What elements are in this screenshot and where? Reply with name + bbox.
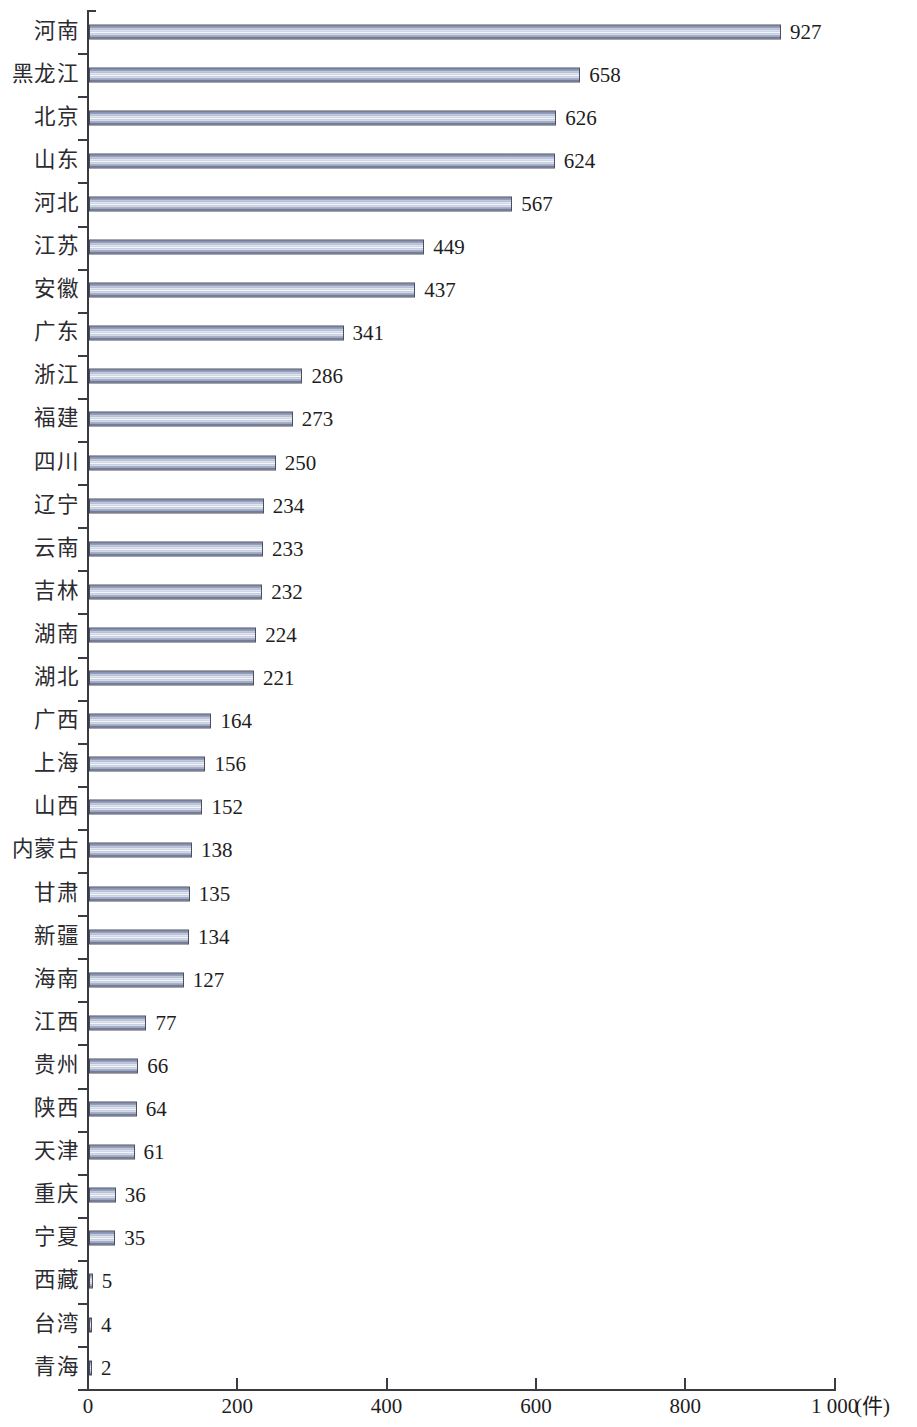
category-label: 黑龙江 bbox=[12, 64, 80, 86]
bar bbox=[89, 326, 344, 341]
x-axis-unit-label: (件) bbox=[855, 1396, 890, 1417]
x-axis-tick bbox=[386, 1378, 388, 1390]
bar bbox=[89, 283, 415, 298]
bar-value-label: 224 bbox=[265, 624, 297, 645]
bar-and-value: 135 bbox=[89, 886, 230, 901]
category-label: 云南 bbox=[34, 538, 79, 560]
bar-value-label: 341 bbox=[353, 323, 385, 344]
bar bbox=[89, 196, 512, 211]
bar bbox=[89, 1015, 146, 1030]
bar-and-value: 77 bbox=[89, 1015, 176, 1030]
bar-row: 黑龙江658 bbox=[0, 53, 917, 96]
y-axis-tick bbox=[78, 1131, 87, 1133]
y-axis-tick bbox=[78, 441, 87, 443]
category-label: 安徽 bbox=[34, 279, 79, 301]
category-label: 河南 bbox=[34, 21, 79, 43]
bar-and-value: 5 bbox=[89, 1274, 112, 1289]
category-label: 新疆 bbox=[34, 926, 79, 948]
y-axis-tick bbox=[78, 958, 87, 960]
bar-row: 西藏5 bbox=[0, 1260, 917, 1303]
y-axis-tick bbox=[78, 398, 87, 400]
category-label: 天津 bbox=[34, 1141, 79, 1163]
bar-and-value: 234 bbox=[89, 498, 304, 513]
bar-and-value: 134 bbox=[89, 929, 230, 944]
bar-row: 海南127 bbox=[0, 958, 917, 1001]
bar-value-label: 437 bbox=[424, 280, 456, 301]
bar-value-label: 77 bbox=[155, 1012, 176, 1033]
bar-and-value: 36 bbox=[89, 1188, 146, 1203]
bar bbox=[89, 972, 184, 987]
bar-and-value: 66 bbox=[89, 1058, 168, 1073]
category-label: 重庆 bbox=[34, 1184, 79, 1206]
category-label: 山东 bbox=[34, 150, 79, 172]
category-label: 广西 bbox=[34, 710, 79, 732]
bar-row: 宁夏35 bbox=[0, 1217, 917, 1260]
category-label: 吉林 bbox=[34, 581, 79, 603]
category-label: 北京 bbox=[34, 107, 79, 129]
bar-value-label: 64 bbox=[146, 1099, 167, 1120]
bar-and-value: 64 bbox=[89, 1102, 167, 1117]
bar-row: 上海156 bbox=[0, 743, 917, 786]
y-axis-tick bbox=[78, 1088, 87, 1090]
category-label: 浙江 bbox=[34, 366, 79, 388]
bar-value-label: 134 bbox=[198, 926, 230, 947]
bar-and-value: 626 bbox=[89, 110, 597, 125]
x-axis-tick bbox=[684, 1378, 686, 1390]
bar-value-label: 286 bbox=[311, 366, 343, 387]
y-axis-tick bbox=[78, 915, 87, 917]
bar-and-value: 127 bbox=[89, 972, 224, 987]
bar-row: 北京626 bbox=[0, 96, 917, 139]
y-axis-tick bbox=[78, 1260, 87, 1262]
bar-row: 湖南224 bbox=[0, 613, 917, 656]
y-axis-tick bbox=[78, 1174, 87, 1176]
bar bbox=[89, 929, 189, 944]
bar-row: 湖北221 bbox=[0, 657, 917, 700]
bar-row: 台湾4 bbox=[0, 1303, 917, 1346]
y-axis-tick bbox=[78, 527, 87, 529]
bar-value-label: 61 bbox=[144, 1142, 165, 1163]
y-axis-tick bbox=[78, 829, 87, 831]
bar-row: 陕西64 bbox=[0, 1088, 917, 1131]
bar bbox=[89, 1058, 138, 1073]
y-axis-tick bbox=[78, 700, 87, 702]
bar-chart: 河南927黑龙江658北京626山东624河北567江苏449安徽437广东34… bbox=[0, 0, 917, 1427]
bar bbox=[89, 714, 211, 729]
category-label: 湖南 bbox=[34, 624, 79, 646]
plot-area: 河南927黑龙江658北京626山东624河北567江苏449安徽437广东34… bbox=[0, 0, 917, 1427]
bar bbox=[89, 24, 781, 39]
bar-and-value: 232 bbox=[89, 584, 303, 599]
bar-row: 辽宁234 bbox=[0, 484, 917, 527]
bar-and-value: 224 bbox=[89, 627, 297, 642]
category-label: 福建 bbox=[34, 409, 79, 431]
bar-value-label: 233 bbox=[272, 538, 304, 559]
bar-row: 内蒙古138 bbox=[0, 829, 917, 872]
bar bbox=[89, 1188, 116, 1203]
y-axis-tick bbox=[78, 312, 87, 314]
bar-value-label: 927 bbox=[790, 21, 822, 42]
bar-value-label: 567 bbox=[521, 193, 553, 214]
bar-row: 江西77 bbox=[0, 1001, 917, 1044]
bar bbox=[89, 240, 424, 255]
bar-value-label: 624 bbox=[564, 150, 596, 171]
bar-value-label: 4 bbox=[101, 1314, 112, 1335]
x-axis-tick-label: 800 bbox=[669, 1396, 701, 1417]
x-axis-tick-label: 200 bbox=[222, 1396, 254, 1417]
bar bbox=[89, 369, 302, 384]
y-axis-tick bbox=[78, 53, 87, 55]
bar-row: 新疆134 bbox=[0, 915, 917, 958]
category-label: 宁夏 bbox=[34, 1228, 79, 1250]
bar-and-value: 658 bbox=[89, 67, 621, 82]
bar-row: 广东341 bbox=[0, 312, 917, 355]
category-label: 青海 bbox=[34, 1357, 79, 1379]
bar bbox=[89, 1231, 115, 1246]
category-label: 西藏 bbox=[34, 1271, 79, 1293]
category-label: 江苏 bbox=[34, 236, 79, 258]
bar-value-label: 164 bbox=[220, 711, 252, 732]
y-axis-tick bbox=[78, 743, 87, 745]
bar bbox=[89, 627, 256, 642]
bar bbox=[89, 455, 276, 470]
bar bbox=[89, 412, 293, 427]
y-axis-tick bbox=[78, 139, 87, 141]
bar-value-label: 234 bbox=[273, 495, 305, 516]
bar-row: 河南927 bbox=[0, 10, 917, 53]
